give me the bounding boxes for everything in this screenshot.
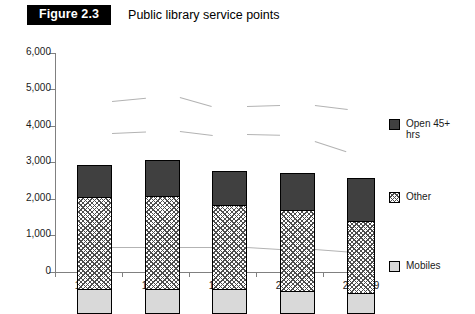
- bar-2008-09: [347, 150, 375, 314]
- stack-connector-total: [180, 97, 212, 107]
- bar-segment-open-45-hrs: [145, 160, 180, 196]
- figure-title: Public library service points: [128, 8, 279, 22]
- stack-connector-mobiles: [247, 247, 280, 250]
- stack-connector-mobiles: [315, 249, 348, 252]
- bar-1988-89: [77, 142, 112, 314]
- bar-segment-other: [347, 221, 375, 293]
- bar-segment-open-45-hrs: [347, 178, 375, 221]
- bar-segment-mobiles: [77, 289, 112, 314]
- bar-segment-other: [212, 205, 247, 289]
- bar-segment-mobiles: [347, 293, 375, 314]
- y-axis-tick-label: 1,000: [26, 228, 51, 239]
- stack-connector-total: [247, 105, 280, 107]
- stack-connector-other: [112, 131, 146, 134]
- legend-label-other: Other: [406, 191, 431, 202]
- bar-segment-open-45-hrs: [77, 165, 112, 197]
- stack-connector-total: [315, 105, 348, 110]
- bar-1998-99: [212, 147, 247, 314]
- stack-connector-other: [315, 141, 347, 152]
- legend-label-mobiles: Mobiles: [406, 260, 440, 271]
- y-axis-tick-label: 5,000: [26, 82, 51, 93]
- chart-area: 6,000 5,000 4,000 3,000 2,000 1,000 0 19…: [0, 30, 475, 314]
- legend-swatch-open-45-hrs: [389, 119, 400, 130]
- bar-segment-mobiles: [145, 289, 180, 314]
- bar-1993-94: [145, 138, 180, 314]
- legend-item-other: Other: [389, 191, 431, 203]
- legend-swatch-other: [389, 192, 400, 203]
- stack-connector-other: [180, 131, 212, 136]
- bar-segment-open-45-hrs: [280, 173, 315, 210]
- stack-connector-total: [112, 97, 145, 101]
- y-axis-tick-label: 3,000: [26, 155, 51, 166]
- x-axis-tick: [256, 272, 257, 277]
- y-axis-tick-label: 6,000: [26, 46, 51, 57]
- legend-item-mobiles: Mobiles: [389, 260, 440, 272]
- figure-header: Figure 2.3 Public library service points: [0, 0, 475, 30]
- legend-item-open-45-hrs: Open 45+ hrs: [389, 118, 450, 140]
- legend-label-open-45-hrs: Open 45+ hrs: [406, 118, 450, 140]
- bar-segment-mobiles: [212, 289, 247, 314]
- x-axis-tick: [323, 272, 324, 277]
- bar-2003-04: [280, 146, 315, 314]
- bar-segment-mobiles: [280, 291, 315, 314]
- y-axis-tick-label: 0: [45, 265, 51, 276]
- bar-segment-other: [145, 196, 180, 289]
- stack-connector-mobiles: [112, 247, 146, 248]
- figure-number-badge: Figure 2.3: [27, 5, 111, 25]
- stack-connector-mobiles: [180, 247, 213, 248]
- bar-segment-other: [280, 210, 315, 291]
- y-axis-tick-label: 2,000: [26, 192, 51, 203]
- x-axis-tick: [189, 272, 190, 277]
- y-axis-tick-label: 4,000: [26, 119, 51, 130]
- legend-swatch-mobiles: [389, 261, 400, 272]
- x-axis-tick: [122, 272, 123, 277]
- stack-connector-other: [247, 134, 280, 136]
- x-axis-tick: [55, 272, 56, 277]
- y-axis-line: [55, 53, 56, 273]
- bar-segment-open-45-hrs: [212, 171, 247, 205]
- bar-segment-other: [77, 197, 112, 289]
